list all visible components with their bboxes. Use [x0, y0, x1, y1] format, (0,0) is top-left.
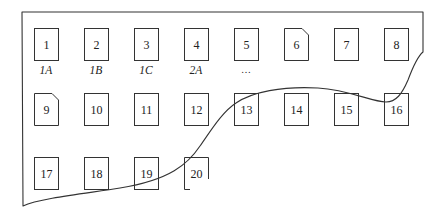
cell-number: 16 [384, 93, 409, 126]
cell-number: 4 [184, 28, 209, 61]
cell-number: 1 [34, 28, 59, 61]
cell-3-sublabel: 1C [126, 65, 166, 77]
cell-3: 3 [134, 28, 159, 61]
cell-5-sublabel-ellipsis: … [226, 65, 266, 75]
cell-7: 7 [334, 28, 359, 61]
cell-11: 11 [134, 93, 159, 126]
cell-10: 10 [84, 93, 109, 126]
cell-20: 20 [184, 157, 209, 190]
cell-9: 9 [34, 93, 59, 126]
cell-18: 18 [84, 157, 109, 190]
cell-number: 11 [134, 93, 159, 126]
cell-number: 5 [234, 28, 259, 61]
cell-13: 13 [234, 93, 259, 126]
cell-number: 6 [284, 28, 309, 61]
cell-2: 2 [84, 28, 109, 61]
cell-8: 8 [384, 28, 409, 61]
cell-15: 15 [334, 93, 359, 126]
cell-16: 16 [384, 93, 409, 126]
cell-17: 17 [34, 157, 59, 190]
cell-1-sublabel: 1A [26, 65, 66, 77]
cell-number: 10 [84, 93, 109, 126]
cell-number: 13 [234, 93, 259, 126]
sheet-diagram: 1 2 3 4 5 6 7 8 1A 1B 1C 2A … 9 10 [0, 0, 441, 216]
cell-2-sublabel: 1B [76, 65, 116, 77]
cell-number: 19 [134, 157, 159, 190]
cell-number: 14 [284, 93, 309, 126]
cell-number: 15 [334, 93, 359, 126]
cell-number: 18 [84, 157, 109, 190]
cell-number: 2 [84, 28, 109, 61]
cell-6: 6 [284, 28, 309, 61]
cell-4-sublabel: 2A [176, 65, 216, 77]
cell-number: 9 [34, 93, 59, 126]
sheet-outline [0, 0, 441, 216]
cell-14: 14 [284, 93, 309, 126]
cell-number: 7 [334, 28, 359, 61]
cell-number: 12 [184, 93, 209, 126]
cell-number: 8 [384, 28, 409, 61]
cell-19: 19 [134, 157, 159, 190]
cell-4: 4 [184, 28, 209, 61]
cell-1: 1 [34, 28, 59, 61]
cell-5: 5 [234, 28, 259, 61]
cell-number: 20 [184, 157, 209, 190]
cell-number: 3 [134, 28, 159, 61]
cell-number: 17 [34, 157, 59, 190]
cell-12: 12 [184, 93, 209, 126]
